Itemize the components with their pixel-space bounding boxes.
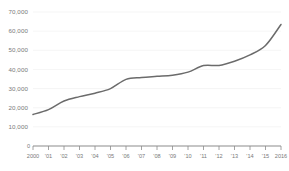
x-axis-tick-label: '05	[107, 153, 114, 159]
x-axis-group	[33, 146, 281, 150]
gridlines-group	[33, 12, 281, 127]
x-axis-tick-label: '14	[246, 153, 253, 159]
y-axis-tick-label: 50,000	[8, 46, 28, 53]
x-axis-tick-label: '13	[231, 153, 238, 159]
x-axis-tick-label: '03	[76, 153, 83, 159]
y-axis-tick-label: 0	[27, 143, 30, 149]
x-axis-tick-label: '08	[153, 153, 160, 159]
y-axis-labels-group: 010,00020,00030,00040,00050,00060,00070,…	[8, 8, 30, 149]
x-axis-labels-group: 2000'01'02'03'04'05'06'07'08'09'10'11'12…	[27, 153, 287, 159]
x-axis-tick-label: 2016	[275, 153, 287, 159]
y-axis-tick-label: 30,000	[8, 85, 28, 92]
x-axis-tick-label: 2000	[27, 153, 39, 159]
x-axis-tick-label: '09	[169, 153, 176, 159]
x-axis-tick-label: '15	[262, 153, 269, 159]
x-axis-tick-label: '11	[200, 153, 207, 159]
y-axis-tick-label: 10,000	[8, 123, 28, 130]
y-axis-tick-label: 60,000	[8, 27, 28, 34]
x-axis-tick-label: '04	[91, 153, 98, 159]
x-axis-tick-label: '07	[138, 153, 145, 159]
line-chart: 010,00020,00030,00040,00050,00060,00070,…	[0, 0, 289, 171]
y-axis-tick-label: 40,000	[8, 66, 28, 73]
x-axis-tick-label: '10	[184, 153, 191, 159]
y-axis-tick-label: 70,000	[8, 8, 28, 15]
x-axis-tick-label: '12	[215, 153, 222, 159]
x-axis-tick-label: '01	[45, 153, 52, 159]
chart-canvas: 010,00020,00030,00040,00050,00060,00070,…	[0, 0, 289, 171]
y-axis-tick-label: 20,000	[8, 104, 28, 111]
x-axis-tick-label: '06	[122, 153, 129, 159]
x-axis-tick-label: '02	[60, 153, 67, 159]
